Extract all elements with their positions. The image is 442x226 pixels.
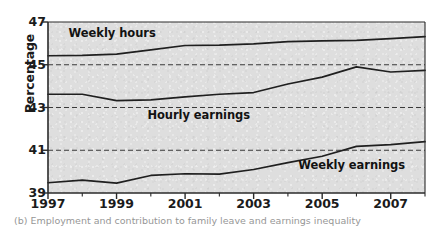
chart-figure: Percentage 3941434547 199719992001200320… <box>0 0 442 226</box>
y-tick-47: 47 <box>10 16 46 29</box>
y-tick-43: 43 <box>10 102 46 115</box>
y-tick-41: 41 <box>10 144 46 157</box>
y-tick-45: 45 <box>10 59 46 72</box>
x-tick-2001: 2001 <box>155 198 215 211</box>
x-tick-2007: 2007 <box>361 198 421 211</box>
plot-area: Weekly hoursHourly earningsWeekly earnin… <box>48 22 425 193</box>
series-label-2: Weekly earnings <box>298 160 405 172</box>
x-tick-1997: 1997 <box>18 198 78 211</box>
x-tick-2003: 2003 <box>224 198 284 211</box>
x-tick-2005: 2005 <box>292 198 352 211</box>
x-tick-1999: 1999 <box>87 198 147 211</box>
series-label-1: Hourly earnings <box>147 110 250 122</box>
figure-caption: (b) Employment and contribution to famil… <box>14 215 434 226</box>
series-label-0: Weekly hours <box>69 28 156 40</box>
series-line-1 <box>48 67 425 101</box>
